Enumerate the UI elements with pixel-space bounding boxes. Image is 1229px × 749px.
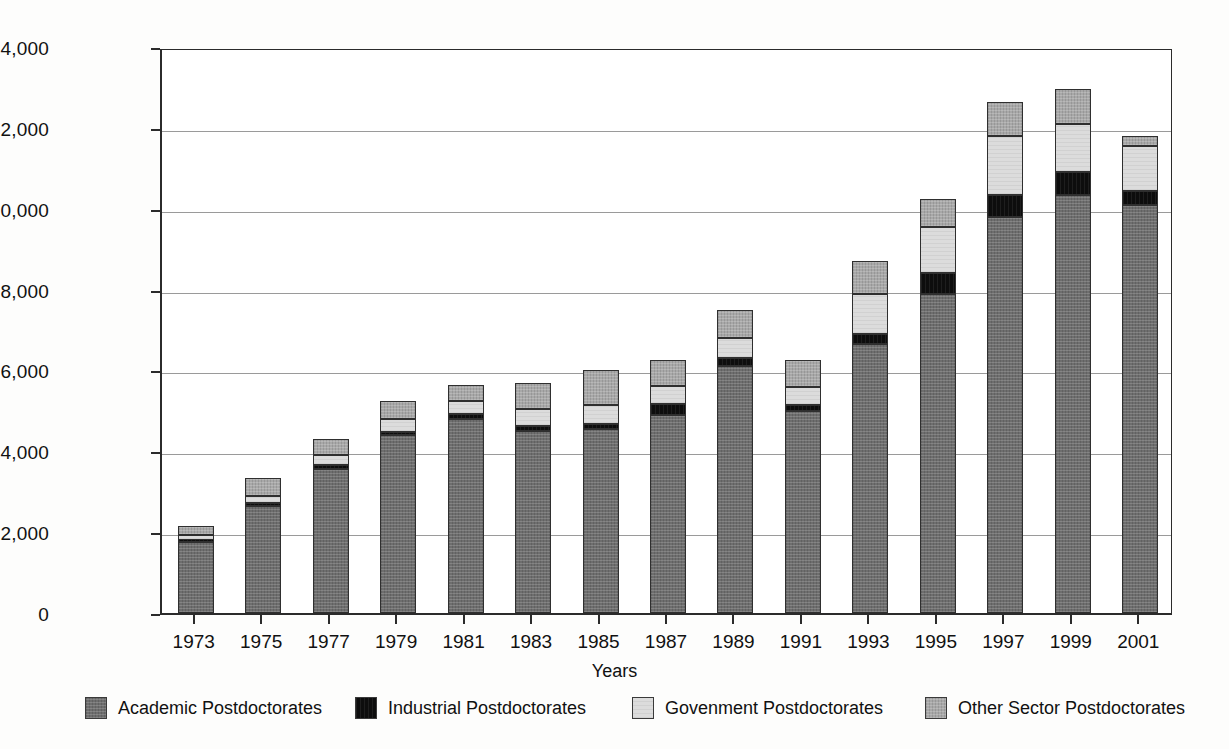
y-axis-tick-mark: [151, 291, 160, 293]
bar-segment[interactable]: [1122, 136, 1158, 146]
bar-segment[interactable]: [178, 542, 214, 613]
bar-segment[interactable]: [448, 419, 484, 613]
stacked-bar-1985[interactable]: [583, 47, 619, 613]
legend-item[interactable]: Other Sector Postdoctorates: [925, 694, 1185, 722]
stacked-bar-1973[interactable]: [178, 47, 214, 613]
bar-segment[interactable]: [717, 366, 753, 613]
y-axis-tick-label: 2,000: [0, 524, 49, 543]
stacked-bar-1983[interactable]: [515, 47, 551, 613]
stacked-bar-1993[interactable]: [852, 47, 888, 613]
y-axis-tick-label: 14,000: [0, 39, 49, 58]
bar-segment[interactable]: [313, 455, 349, 464]
bar-segment[interactable]: [785, 411, 821, 613]
bar-segment[interactable]: [448, 414, 484, 419]
x-axis-tick-mark: [732, 615, 734, 624]
bar-segment[interactable]: [717, 310, 753, 338]
y-axis-tick-mark: [151, 129, 160, 131]
bar-segment[interactable]: [785, 360, 821, 387]
bar-segment[interactable]: [583, 405, 619, 424]
stacked-bar-1999[interactable]: [1055, 47, 1091, 613]
stacked-bar-1981[interactable]: [448, 47, 484, 613]
bar-segment[interactable]: [1055, 124, 1091, 173]
y-axis-tick-mark: [151, 614, 160, 616]
legend-item[interactable]: Govenment Postdoctorates: [632, 694, 883, 722]
stacked-bar-1991[interactable]: [785, 47, 821, 613]
bar-segment[interactable]: [313, 465, 349, 470]
x-axis-tick-mark: [598, 615, 600, 624]
bar-segment[interactable]: [245, 496, 281, 503]
bar-segment[interactable]: [515, 383, 551, 409]
bar-segment[interactable]: [583, 429, 619, 613]
bar-segment[interactable]: [515, 431, 551, 613]
bar-segment[interactable]: [785, 405, 821, 411]
bar-segment[interactable]: [650, 386, 686, 403]
bar-segment[interactable]: [583, 424, 619, 429]
stacked-bar-1979[interactable]: [380, 47, 416, 613]
stacked-bar-2001[interactable]: [1122, 47, 1158, 613]
bar-segment[interactable]: [987, 217, 1023, 613]
legend-label: Other Sector Postdoctorates: [958, 698, 1185, 718]
x-axis-tick-mark: [193, 615, 195, 624]
y-axis-tick-label: 6,000: [0, 362, 49, 381]
stacked-bar-1995[interactable]: [920, 47, 956, 613]
bar-segment[interactable]: [1055, 89, 1091, 123]
stacked-bar-1997[interactable]: [987, 47, 1023, 613]
bar-segment[interactable]: [1055, 195, 1091, 613]
bar-segment[interactable]: [1122, 191, 1158, 205]
bar-segment[interactable]: [178, 526, 214, 534]
bar-segment[interactable]: [515, 426, 551, 431]
bar-segment[interactable]: [313, 469, 349, 613]
bar-segment[interactable]: [717, 358, 753, 366]
bar-segment[interactable]: [852, 294, 888, 334]
legend-item[interactable]: Industrial Postdoctorates: [355, 694, 586, 722]
bar-segment[interactable]: [650, 360, 686, 386]
bar-segment[interactable]: [1055, 172, 1091, 194]
bar-segment[interactable]: [448, 401, 484, 414]
bar-segment[interactable]: [1122, 205, 1158, 613]
bar-segment[interactable]: [920, 199, 956, 227]
bar-segment[interactable]: [852, 261, 888, 293]
bar-segment[interactable]: [987, 136, 1023, 195]
y-axis-tick-label: 12,000: [0, 120, 49, 139]
legend-label: Govenment Postdoctorates: [665, 698, 883, 718]
bar-segment[interactable]: [920, 227, 956, 273]
bar-segment[interactable]: [245, 506, 281, 613]
bar-segment[interactable]: [245, 478, 281, 496]
bar-segment[interactable]: [852, 334, 888, 344]
bar-segment[interactable]: [920, 294, 956, 613]
stacked-bar-1987[interactable]: [650, 47, 686, 613]
bar-segment[interactable]: [650, 415, 686, 613]
bar-segment[interactable]: [245, 503, 281, 506]
academic-swatch: [85, 697, 107, 719]
bar-segment[interactable]: [515, 409, 551, 426]
stacked-bar-1989[interactable]: [717, 47, 753, 613]
x-axis-tick-mark: [530, 615, 532, 624]
bar-segment[interactable]: [1122, 146, 1158, 190]
stacked-bar-1975[interactable]: [245, 47, 281, 613]
bar-segment[interactable]: [987, 102, 1023, 136]
bar-segment[interactable]: [178, 535, 214, 540]
bar-segment[interactable]: [650, 404, 686, 415]
bar-segment[interactable]: [852, 344, 888, 613]
bar-segment[interactable]: [987, 195, 1023, 217]
x-axis-tick-mark: [328, 615, 330, 624]
bar-segment[interactable]: [717, 338, 753, 358]
bar-segment[interactable]: [920, 273, 956, 293]
bar-segment[interactable]: [583, 370, 619, 404]
y-axis-tick-mark: [151, 210, 160, 212]
bar-segment[interactable]: [380, 435, 416, 613]
chart-legend: Academic PostdoctoratesIndustrial Postdo…: [0, 694, 1229, 726]
x-axis-tick-mark: [1002, 615, 1004, 624]
stacked-bar-1977[interactable]: [313, 47, 349, 613]
bar-segment[interactable]: [785, 387, 821, 404]
x-axis-tick-mark: [800, 615, 802, 624]
bar-segment[interactable]: [380, 419, 416, 432]
bar-segment[interactable]: [448, 385, 484, 401]
legend-label: Industrial Postdoctorates: [388, 698, 586, 718]
other-sector-swatch: [925, 697, 947, 719]
legend-item[interactable]: Academic Postdoctorates: [85, 694, 322, 722]
bar-segment[interactable]: [380, 401, 416, 419]
bar-segment[interactable]: [380, 432, 416, 435]
bar-segment[interactable]: [313, 439, 349, 455]
legend-label: Academic Postdoctorates: [118, 698, 322, 718]
